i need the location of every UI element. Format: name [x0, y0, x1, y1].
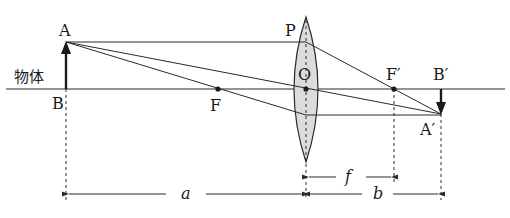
label-a-prime: A′: [419, 120, 436, 139]
label-f: F: [210, 96, 221, 115]
lens-diagram: A B 物体 P O F F′ B′ A′ f a b: [0, 0, 510, 218]
label-f-prime: F′: [386, 65, 401, 84]
label-object: 物体: [14, 68, 44, 86]
guide-lines: [66, 20, 441, 200]
light-rays: [66, 42, 441, 115]
label-o: O: [298, 65, 311, 84]
label-dim-f: f: [344, 167, 354, 186]
label-a-top: A: [58, 21, 71, 40]
focus-point-f-prime: [391, 86, 396, 91]
label-b-bottom: B: [52, 94, 64, 113]
label-b-prime: B′: [433, 65, 449, 84]
lens-center-point: [303, 86, 308, 91]
label-dim-a: a: [181, 184, 191, 203]
label-p: P: [285, 21, 296, 40]
label-dim-b: b: [373, 184, 383, 203]
focus-point-f: [215, 86, 220, 91]
